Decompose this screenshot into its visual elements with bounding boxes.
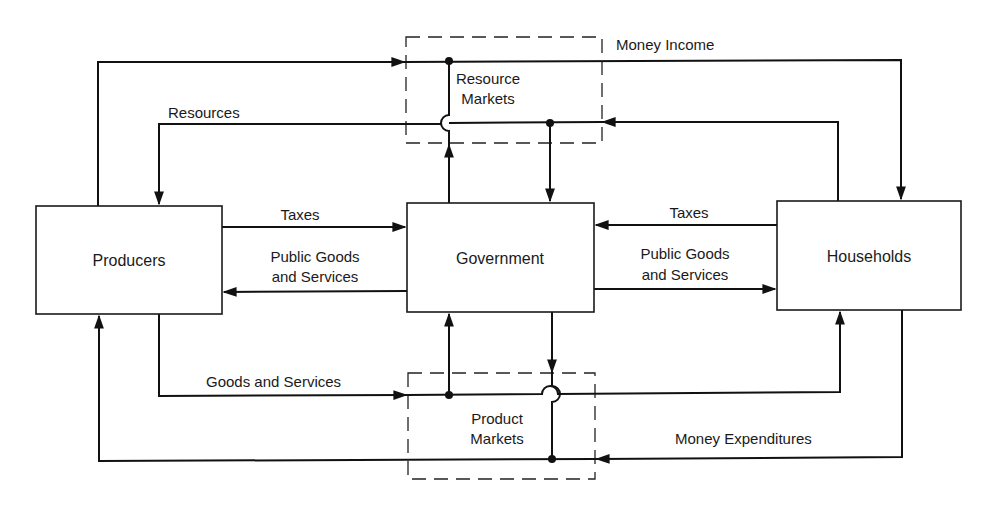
producers-label: Producers [93,252,166,269]
public-goods-right-line2: and Services [642,266,729,283]
government-product-link [552,372,560,459]
resource-markets-label-line2: Markets [461,90,514,107]
public-goods-left-line2: and Services [272,268,359,285]
resources-flow-left [159,122,603,204]
product-markets-label-line1: Product [471,410,524,427]
product-markets-label-line2: Markets [470,430,523,447]
households-label: Households [827,248,912,265]
taxes-left-label: Taxes [280,206,319,223]
public-goods-producers-flow [224,291,407,292]
government-resource-link [441,60,449,203]
circular-flow-diagram: Producers Government Households Resource… [0,0,993,507]
resources-flow-right [603,122,838,201]
taxes-right-label: Taxes [669,204,708,221]
money-income-flow-left [98,62,404,206]
goods-services-label: Goods and Services [206,373,341,390]
junction-dot [445,57,453,65]
resource-markets-label-line1: Resource [456,70,520,87]
junction-dot [546,119,554,127]
public-goods-right-line1: Public Goods [640,245,729,262]
government-label: Government [456,250,545,267]
junction-dot [548,455,556,463]
public-goods-left-line1: Public Goods [270,248,359,265]
money-income-label: Money Income [616,36,714,53]
junction-dot [445,391,453,399]
goods-services-flow-right [406,312,840,395]
money-expenditures-label: Money Expenditures [675,430,812,447]
resources-label: Resources [168,104,240,121]
